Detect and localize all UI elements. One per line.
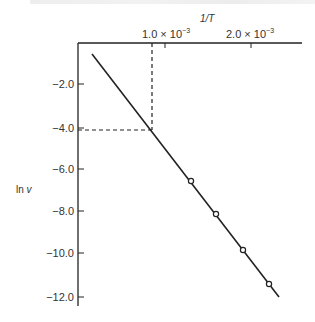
data-point	[213, 211, 218, 216]
y-tick-label-1: −2.0	[52, 78, 74, 90]
arrhenius-plot: 1.0 × 10−3 2.0 × 10−3 1/T −2.0 −4.0 −6.0…	[0, 0, 315, 322]
data-point	[266, 281, 271, 286]
y-tick-label-2: −4.0	[52, 122, 74, 134]
fit-line	[92, 54, 279, 297]
x-axis-title: 1/T	[200, 13, 215, 24]
data-point	[188, 178, 193, 183]
data-point	[240, 247, 245, 252]
y-axis-title: ln v	[16, 184, 33, 195]
y-tick-label-4: −8.0	[52, 205, 74, 217]
x-tick-label-2: 2.0 × 10−3	[226, 27, 274, 40]
y-tick-label-6: −12.0	[46, 291, 74, 303]
y-tick-label-5: −10.0	[46, 247, 74, 259]
x-tick-label-1: 1.0 × 10−3	[142, 27, 190, 40]
y-tick-label-3: −6.0	[52, 163, 74, 175]
